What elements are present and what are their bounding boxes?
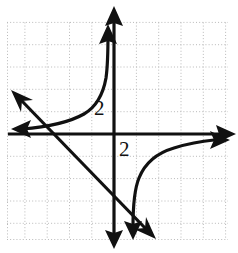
- coordinate-plane-svg: [0, 0, 238, 253]
- y-axis-up-arrow-icon: [105, 6, 123, 26]
- straight-line-graph: [11, 90, 156, 239]
- y-axis-tick-label-2: 2: [94, 98, 105, 119]
- hyperbola-lower-right-path: [133, 140, 214, 227]
- x-axis-tick-label-2: 2: [119, 139, 130, 160]
- hyperbola-upper-left-branch: [11, 24, 117, 138]
- grid-dots-group: [7, 22, 228, 239]
- straight-line-path: [20, 99, 146, 229]
- grid-horizontal-lines: [7, 22, 228, 239]
- grid-vertical-lines: [8, 22, 226, 239]
- graph-figure: 2 2: [0, 0, 238, 253]
